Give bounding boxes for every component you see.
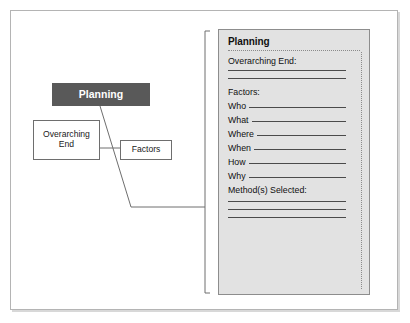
question-row-when[interactable]: When [228, 143, 346, 153]
node-factors[interactable]: Factors [120, 140, 172, 160]
figure-container: Planning Overarching End Factors Plannin… [0, 0, 410, 323]
question-write-line-when[interactable] [254, 149, 346, 150]
overarching-end-write-line-1[interactable] [228, 70, 346, 71]
question-label-why: Why [228, 171, 246, 181]
methods-write-line-2[interactable] [228, 209, 346, 210]
factors-field-label: Factors: [228, 87, 360, 97]
node-planning-root-label: Planning [79, 89, 123, 101]
question-write-line-how[interactable] [249, 163, 346, 164]
question-write-line-why[interactable] [249, 177, 346, 178]
question-label-where: Where [228, 129, 254, 139]
planning-worksheet-card: Planning Overarching End: Factors: Who W… [218, 29, 370, 295]
question-label-when: When [228, 143, 251, 153]
node-overarching-end[interactable]: Overarching End [33, 120, 100, 160]
methods-selected-field-label: Method(s) Selected: [228, 185, 360, 195]
card-title: Planning [228, 36, 360, 47]
card-title-divider [228, 50, 360, 51]
question-row-where[interactable]: Where [228, 129, 346, 139]
question-row-why[interactable]: Why [228, 171, 346, 181]
methods-write-line-1[interactable] [228, 201, 346, 202]
question-label-how: How [228, 157, 246, 167]
question-row-what[interactable]: What [228, 115, 346, 125]
question-row-who[interactable]: Who [228, 101, 346, 111]
question-row-how[interactable]: How [228, 157, 346, 167]
question-write-line-what[interactable] [252, 121, 346, 122]
overarching-end-field-label: Overarching End: [228, 56, 360, 66]
question-label-what: What [228, 115, 249, 125]
node-planning-root[interactable]: Planning [52, 83, 150, 106]
methods-write-line-3[interactable] [228, 217, 346, 218]
question-write-line-where[interactable] [257, 135, 346, 136]
node-overarching-end-line2: End [59, 139, 74, 149]
question-label-who: Who [228, 101, 246, 111]
node-overarching-end-label: Overarching End [43, 130, 90, 149]
node-factors-label: Factors [132, 145, 161, 155]
node-overarching-end-line1: Overarching [43, 129, 90, 139]
question-write-line-who[interactable] [249, 107, 346, 108]
overarching-end-write-line-2[interactable] [228, 78, 346, 79]
card-dotted-right-border [361, 52, 362, 289]
